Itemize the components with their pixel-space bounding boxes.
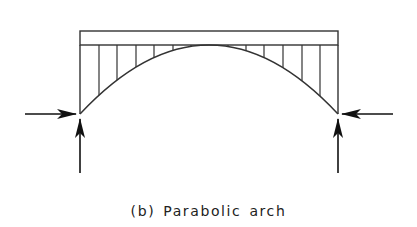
parabolic-arch [80, 45, 338, 114]
figure-caption: (b) Parabolic arch [0, 203, 417, 219]
parabolic-arch-diagram [0, 0, 417, 227]
deck-beam [80, 31, 338, 45]
